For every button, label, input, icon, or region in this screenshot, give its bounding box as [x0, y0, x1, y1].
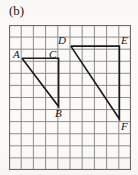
grid-container	[9, 25, 131, 170]
vertex-label-c: C	[49, 49, 56, 60]
vertex-label-b: B	[55, 108, 62, 119]
vertex-label-f: F	[121, 121, 128, 132]
vertex-label-d: D	[58, 35, 66, 46]
part-label: (b)	[9, 4, 24, 18]
shape-triangle-def	[71, 46, 120, 119]
grid-and-shapes-svg	[9, 25, 131, 170]
vertex-label-e: E	[121, 35, 128, 46]
vertex-label-a: A	[13, 49, 20, 60]
shape-paths	[22, 46, 119, 119]
shape-triangle-abc	[22, 58, 59, 106]
figure-panel: (b) ABCDEF	[0, 0, 138, 175]
